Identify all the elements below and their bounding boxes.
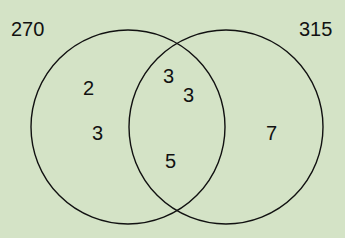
left-set-label: 270 xyxy=(11,19,44,39)
left-only-value: 3 xyxy=(92,123,103,143)
intersection-value: 3 xyxy=(183,85,194,105)
left-set-circle xyxy=(31,30,225,224)
right-set-label: 315 xyxy=(299,19,332,39)
intersection-value: 5 xyxy=(165,151,176,171)
left-only-value: 2 xyxy=(83,78,94,98)
right-set-circle xyxy=(129,30,323,224)
right-only-value: 7 xyxy=(266,123,277,143)
intersection-value: 3 xyxy=(163,66,174,86)
venn-diagram xyxy=(0,0,345,238)
